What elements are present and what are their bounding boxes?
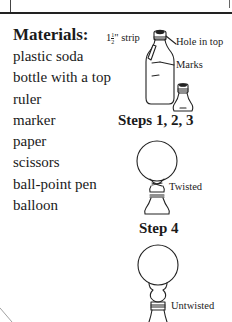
top-rule (0, 12, 232, 14)
material-item: bottle with a top (13, 67, 153, 88)
strip-label-suffix: " strip (114, 32, 140, 43)
materials-list: plastic soda bottle with a top ruler mar… (13, 46, 153, 216)
decorative-line (0, 308, 12, 322)
material-item: balloon (13, 195, 153, 216)
material-item: scissors (13, 152, 153, 173)
column-divider-left (10, 0, 11, 12)
hole-in-top-label: Hole in top (176, 36, 223, 47)
material-item: ball-point pen (13, 174, 153, 195)
material-item: paper (13, 131, 153, 152)
marks-leader-line (160, 62, 174, 65)
steps-1-2-3-heading: Steps 1, 2, 3 (118, 112, 193, 129)
material-item: plastic soda (13, 46, 153, 67)
strip-label: 112" strip (106, 32, 140, 45)
untwisted-label: Untwisted (171, 300, 214, 311)
step-4-heading: Step 4 (139, 220, 179, 237)
column-divider-right (229, 0, 230, 8)
twisted-label: Twisted (169, 181, 202, 192)
material-item: ruler (13, 89, 153, 110)
hole-leader-line (166, 36, 176, 44)
bottle-top-icon (173, 84, 193, 111)
marks-label: Marks (176, 59, 203, 70)
